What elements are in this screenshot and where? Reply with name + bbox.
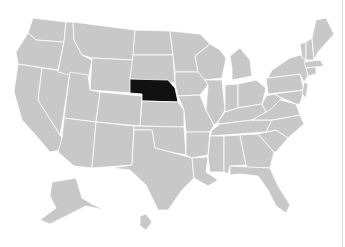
us-map: WashingtonOregonCaliforniaNevadaIdahoMon… [0,0,345,247]
state-indiana: Indiana [225,84,238,112]
state-colorado: Colorado [96,92,142,126]
state-florida: Florida [230,166,290,213]
state-arizona: Arizona [58,118,96,168]
state-alaska: Alaska [40,178,104,224]
state-kansas: Kansas [140,101,184,127]
state-maine: Maine [312,18,334,60]
state-north-dakota: North Dakota [133,30,173,55]
state-wyoming: Wyoming [90,58,133,93]
state-arkansas: Arkansas [186,132,210,158]
state-montana: Montana [73,22,135,60]
right-edge-divider [342,0,343,247]
state-michigan: Michigan [230,48,252,80]
state-hawaii: Hawaii [140,214,152,230]
state-new-mexico: New Mexico [92,122,134,168]
state-connecticut: Connecticut [306,67,316,76]
state-mississippi: Mississippi [208,136,224,172]
